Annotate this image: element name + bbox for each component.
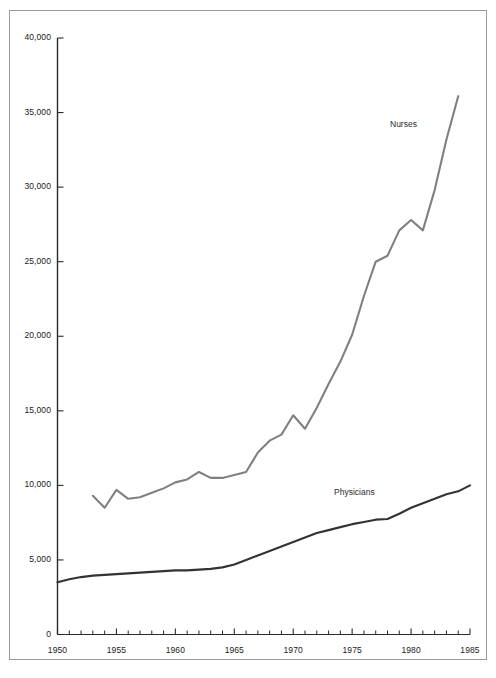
series-annotation-nurses: Nurses xyxy=(390,119,417,129)
chart-figure: 05,00010,00015,00020,00025,00030,00035,0… xyxy=(0,0,496,678)
series-line-nurses xyxy=(93,96,458,508)
y-axis-tick-label: 30,000 xyxy=(8,181,51,191)
y-axis-tick-label: 40,000 xyxy=(8,32,51,42)
y-axis-tick-label: 25,000 xyxy=(8,256,51,266)
x-axis-major-ticks xyxy=(58,629,471,635)
x-axis-tick-label: 1980 xyxy=(391,645,431,655)
y-axis-tick-label: 10,000 xyxy=(8,479,51,489)
series-line-physicians xyxy=(58,485,471,582)
x-axis-tick-label: 1960 xyxy=(155,645,195,655)
chart-plot-area xyxy=(0,0,496,678)
x-axis-tick-label: 1975 xyxy=(332,645,372,655)
y-axis-ticks xyxy=(58,38,64,635)
y-axis-tick-label: 20,000 xyxy=(8,330,51,340)
x-axis-tick-label: 1950 xyxy=(38,645,78,655)
series-annotation-physicians: Physicians xyxy=(334,487,375,497)
y-axis-tick-label: 35,000 xyxy=(8,107,51,117)
y-axis-tick-label: 15,000 xyxy=(8,405,51,415)
data-series-paths xyxy=(58,96,471,582)
y-axis-tick-label: 0 xyxy=(8,629,51,639)
y-axis-tick-label: 5,000 xyxy=(8,554,51,564)
x-axis-tick-label: 1955 xyxy=(96,645,136,655)
x-axis-tick-label: 1970 xyxy=(273,645,313,655)
x-axis-tick-label: 1985 xyxy=(450,645,490,655)
x-axis-tick-label: 1965 xyxy=(214,645,254,655)
